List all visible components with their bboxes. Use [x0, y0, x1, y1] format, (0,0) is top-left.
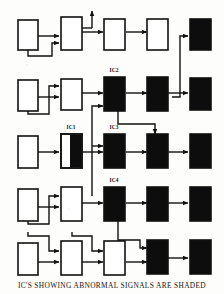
block-r2c1[interactable]	[18, 80, 38, 111]
block-r2c3-ic2[interactable]	[104, 77, 125, 111]
block-r5c3[interactable]	[104, 241, 125, 275]
block-r3c2-ic1[interactable]	[61, 134, 82, 168]
block-r1c4[interactable]	[147, 19, 168, 50]
block-r3c5[interactable]	[190, 134, 211, 168]
block-r4c5[interactable]	[190, 187, 211, 221]
block-r4c4[interactable]	[147, 187, 168, 221]
block-r1c5[interactable]	[190, 19, 211, 50]
block-r4c2[interactable]	[61, 187, 82, 221]
block-r1c3[interactable]	[104, 19, 125, 50]
caption-layer: IC'S SHOWING ABNORMAL SIGNALS ARE SHADED	[18, 281, 206, 290]
block-r2c4[interactable]	[147, 77, 168, 111]
block-r5c1[interactable]	[18, 243, 38, 275]
block-r3c3-ic3[interactable]	[104, 134, 125, 168]
block-r1c1[interactable]	[18, 20, 38, 50]
wire-feedback-r2c3-r3c4	[118, 110, 155, 134]
block-r3c1[interactable]	[18, 136, 38, 168]
ic4-label: IC4	[110, 177, 119, 183]
block-r2c5[interactable]	[190, 78, 211, 110]
block-r4c3-ic4[interactable]	[104, 187, 125, 221]
diagram-canvas: IC2 IC1 IC3 IC4 IC'S SHOWING ABNORMAL SI…	[0, 0, 224, 294]
wire-riser-to-r2c3	[92, 106, 103, 196]
block-r5c2[interactable]	[61, 241, 82, 275]
block-r2c2[interactable]	[61, 79, 82, 110]
block-r1c2[interactable]	[61, 17, 82, 50]
ic3-label: IC3	[110, 124, 119, 130]
block-r5c5[interactable]	[190, 240, 211, 274]
ic1-label: IC1	[67, 124, 76, 130]
block-r3c4[interactable]	[147, 134, 168, 168]
block-r4c1[interactable]	[18, 189, 38, 221]
block-diagram-figure: IC2 IC1 IC3 IC4 IC'S SHOWING ABNORMAL SI…	[0, 0, 224, 294]
figure-caption: IC'S SHOWING ABNORMAL SIGNALS ARE SHADED	[18, 281, 206, 290]
ic2-label: IC2	[110, 67, 119, 73]
block-r5c4[interactable]	[147, 240, 168, 274]
wire-feedback-r2-to-r1c5	[172, 36, 188, 97]
